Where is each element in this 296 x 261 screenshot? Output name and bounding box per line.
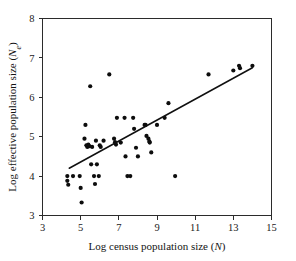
data-point [83,123,87,127]
data-point [71,174,75,178]
data-point [155,123,159,127]
x-tick-label: 11 [190,222,200,233]
data-point [99,145,103,149]
x-tick-label: 7 [116,222,121,233]
data-point [112,137,116,141]
data-point [95,162,99,166]
x-tick-label: 15 [266,222,277,233]
data-point [101,139,105,143]
data-point [90,145,94,149]
regression-line [69,68,252,168]
data-point [82,137,86,141]
data-point [88,84,92,88]
x-axis-ticks [43,216,272,220]
plot-frame [43,18,273,216]
figure-container: 345678 3579111315 Log census population … [0,0,296,261]
data-point [231,68,235,72]
y-axis-tick-labels: 345678 [29,13,35,221]
data-point [89,162,93,166]
y-tick-label: 8 [29,13,34,24]
data-point [128,174,132,178]
data-point [65,179,69,183]
y-tick-label: 5 [29,131,34,142]
data-point-group [65,64,254,205]
data-point [78,174,82,178]
data-point [107,72,111,76]
x-tick-label: 5 [78,222,83,233]
data-point [166,101,170,105]
data-point [148,141,152,145]
data-point [238,66,242,70]
y-tick-label: 6 [29,92,34,103]
data-point [132,127,136,131]
x-tick-label: 3 [40,222,45,233]
data-point [79,186,83,190]
data-point [206,72,210,76]
data-point [66,183,70,187]
y-tick-label: 7 [29,53,34,64]
data-point [131,116,135,120]
data-point [149,150,153,154]
data-point [80,200,84,204]
y-axis-title: Log effective population size (Ne) [6,42,23,192]
data-point [115,116,119,120]
x-tick-label: 9 [154,222,159,233]
scatter-plot: 345678 3579111315 Log census population … [0,0,296,261]
data-point [93,182,97,186]
data-point [173,174,177,178]
data-point [92,174,96,178]
x-axis-tick-labels: 3579111315 [40,222,277,233]
data-point [136,154,140,158]
y-tick-label: 3 [29,210,34,221]
x-axis-title: Log census population size (N) [89,240,226,253]
data-point [123,154,127,158]
y-axis-ticks [39,19,43,216]
data-point [65,174,69,178]
x-tick-label: 13 [228,222,239,233]
data-point [94,139,98,143]
data-point [122,116,126,120]
y-tick-label: 4 [29,171,35,182]
data-point [97,174,101,178]
data-point [134,146,138,150]
